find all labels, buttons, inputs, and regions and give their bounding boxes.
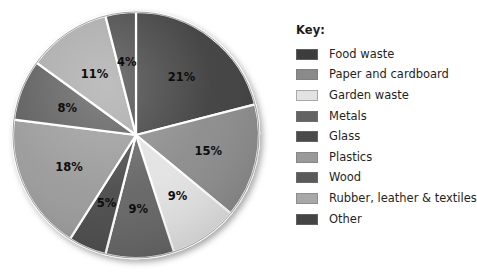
legend-item-label: Food waste — [329, 48, 394, 61]
legend-swatch-icon — [296, 172, 318, 183]
legend-swatch-icon — [296, 90, 318, 101]
legend-item: Wood — [296, 168, 474, 189]
legend-item-label: Metals — [329, 110, 367, 123]
pie-slice-value-label: 9% — [168, 189, 188, 203]
pie-slice-value-label: 8% — [57, 101, 77, 115]
pie-slice-value-label: 11% — [81, 67, 109, 81]
legend-swatch-icon — [296, 131, 318, 142]
legend-swatch-icon — [296, 152, 318, 163]
pie-slice-value-label: 15% — [194, 144, 222, 158]
legend-item-label: Garden waste — [329, 89, 409, 102]
legend-item: Plastics — [296, 147, 474, 168]
pie-slices — [13, 12, 259, 258]
pie-slice-value-label: 4% — [117, 55, 137, 69]
legend-item: Paper and cardboard — [296, 65, 474, 86]
legend-item: Glass — [296, 126, 474, 147]
legend-title: Key: — [296, 24, 474, 37]
pie-chart-plot-area: 21%15%9%9%5%18%8%11%4% — [0, 0, 285, 275]
legend-item-label: Glass — [329, 130, 360, 143]
legend-item: Metals — [296, 106, 474, 127]
legend-item-label: Rubber, leather & textiles — [329, 192, 477, 205]
legend-item-label: Other — [329, 213, 362, 226]
legend-swatch-icon — [296, 214, 318, 225]
legend-item: Rubber, leather & textiles — [296, 188, 474, 209]
pie-slice-value-label: 9% — [129, 202, 149, 216]
pie-slice-value-label: 18% — [55, 160, 83, 174]
pie-chart-svg: 21%15%9%9%5%18%8%11%4% — [8, 8, 270, 270]
legend-swatch-icon — [296, 49, 318, 60]
legend: Key: Food wastePaper and cardboardGarden… — [296, 24, 474, 229]
legend-item: Other — [296, 209, 474, 230]
legend-item: Garden waste — [296, 85, 474, 106]
legend-item: Food waste — [296, 44, 474, 65]
pie-slice-value-label: 5% — [97, 196, 117, 210]
pie-slice-value-label: 21% — [168, 70, 196, 84]
legend-swatch-icon — [296, 69, 318, 80]
legend-swatch-icon — [296, 193, 318, 204]
legend-item-label: Plastics — [329, 151, 372, 164]
legend-items: Food wastePaper and cardboardGarden wast… — [296, 44, 474, 229]
legend-item-label: Paper and cardboard — [329, 68, 449, 81]
legend-swatch-icon — [296, 111, 318, 122]
legend-item-label: Wood — [329, 171, 361, 184]
